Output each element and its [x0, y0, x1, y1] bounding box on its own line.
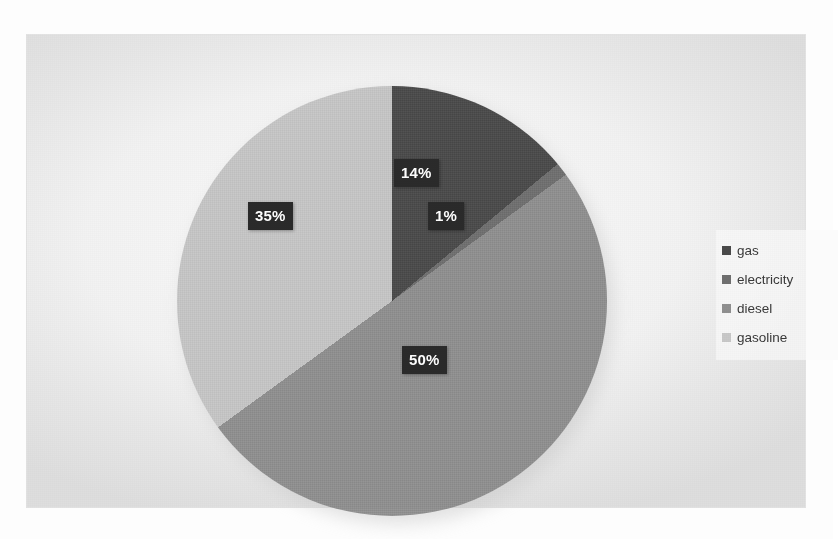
legend: gas electricity diesel gasoline [716, 230, 838, 360]
legend-item-gas[interactable]: gas [722, 236, 834, 265]
legend-item-electricity[interactable]: electricity [722, 265, 834, 294]
legend-swatch-icon-gas [722, 246, 731, 255]
data-label-diesel: 50% [402, 346, 447, 374]
legend-label-electricity: electricity [737, 273, 793, 287]
pie-chart [177, 86, 607, 516]
legend-swatch-icon-diesel [722, 304, 731, 313]
legend-label-gas: gas [737, 244, 759, 258]
legend-label-diesel: diesel [737, 302, 772, 316]
data-label-gas: 14% [394, 159, 439, 187]
page-top-cutoff-text [0, 0, 833, 8]
legend-swatch-icon-gasoline [722, 333, 731, 342]
legend-swatch-icon-electricity [722, 275, 731, 284]
data-label-gasoline: 35% [248, 202, 293, 230]
legend-item-diesel[interactable]: diesel [722, 294, 834, 323]
data-label-electricity: 1% [428, 202, 464, 230]
pie-slices[interactable] [177, 86, 607, 516]
legend-label-gasoline: gasoline [737, 331, 787, 345]
chart-panel: 14% 1% 35% 50% gas electricity diesel ga… [26, 34, 806, 508]
legend-item-gasoline[interactable]: gasoline [722, 323, 834, 352]
